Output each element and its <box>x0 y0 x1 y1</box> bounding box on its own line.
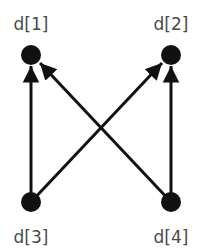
label-d3: d[3] <box>14 227 49 247</box>
label-d1: d[1] <box>14 14 49 34</box>
label-d4: d[4] <box>154 227 189 247</box>
node-d4 <box>161 192 181 212</box>
node-d3 <box>21 192 41 212</box>
label-d2: d[2] <box>154 14 189 34</box>
diagram-canvas: d[1] d[2] d[3] d[4] <box>0 0 201 251</box>
edge-d4-d1 <box>40 63 171 202</box>
node-d2 <box>161 45 181 65</box>
edge-d3-d2 <box>31 63 162 202</box>
node-d1 <box>21 45 41 65</box>
edges <box>31 63 171 202</box>
labels: d[1] d[2] d[3] d[4] <box>14 14 189 247</box>
